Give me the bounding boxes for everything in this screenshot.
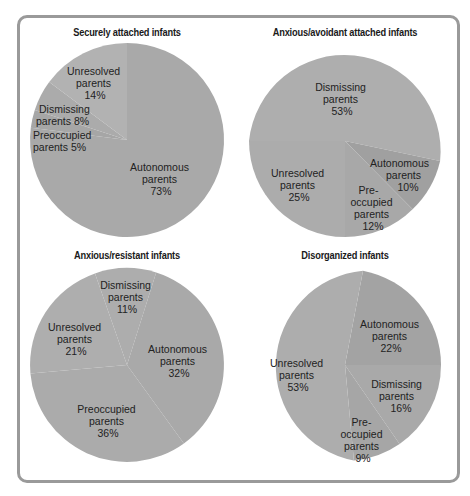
pie-chart-disorganized: Autonomous parents 22% Dismissing parent… [0,0,470,496]
